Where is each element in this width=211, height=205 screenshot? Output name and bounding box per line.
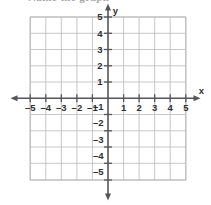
x-axis-arrow-left xyxy=(11,95,18,101)
x-tick-label-neg4: –4 xyxy=(41,102,52,113)
y-tick-label-neg3: –3 xyxy=(93,134,104,145)
coordinate-plane: 5 4 3 2 1 –1 –2 –3 –4 –5 –5 –4 –3 –2 –1 … xyxy=(0,0,211,205)
y-axis-arrow-up xyxy=(105,4,111,11)
x-axis-label: x xyxy=(199,85,205,96)
x-tick-label-neg3: –3 xyxy=(56,102,67,113)
y-tick-label-2: 2 xyxy=(97,60,102,71)
x-tick-label-5: 5 xyxy=(183,102,189,113)
y-axis-positive-labels: 5 4 3 2 1 xyxy=(97,11,103,87)
x-tick-label-neg1: –1 xyxy=(87,102,98,113)
graph-canvas: Name the graph xyxy=(0,0,211,205)
y-tick-label-5: 5 xyxy=(97,11,103,22)
y-tick-label-neg5: –5 xyxy=(93,166,104,177)
x-axis xyxy=(11,95,201,101)
x-axis-negative-labels: –5 –4 –3 –2 –1 xyxy=(25,102,98,113)
y-tick-label-neg2: –2 xyxy=(93,117,104,128)
x-tick-label-1: 1 xyxy=(121,102,127,113)
x-tick-label-3: 3 xyxy=(152,102,157,113)
y-tick-label-3: 3 xyxy=(97,44,102,55)
x-axis-arrow-right xyxy=(194,95,201,101)
y-axis-arrow-down xyxy=(105,194,111,201)
y-tick-label-4: 4 xyxy=(97,28,103,39)
x-axis-positive-labels: 1 2 3 4 5 xyxy=(121,102,189,113)
x-tick-label-2: 2 xyxy=(136,102,141,113)
y-tick-label-neg4: –4 xyxy=(93,150,104,161)
y-tick-label-1: 1 xyxy=(97,76,103,87)
y-axis-label: y xyxy=(113,5,119,16)
x-tick-label-neg2: –2 xyxy=(72,102,83,113)
x-tick-label-4: 4 xyxy=(168,102,174,113)
x-tick-label-neg5: –5 xyxy=(25,102,36,113)
